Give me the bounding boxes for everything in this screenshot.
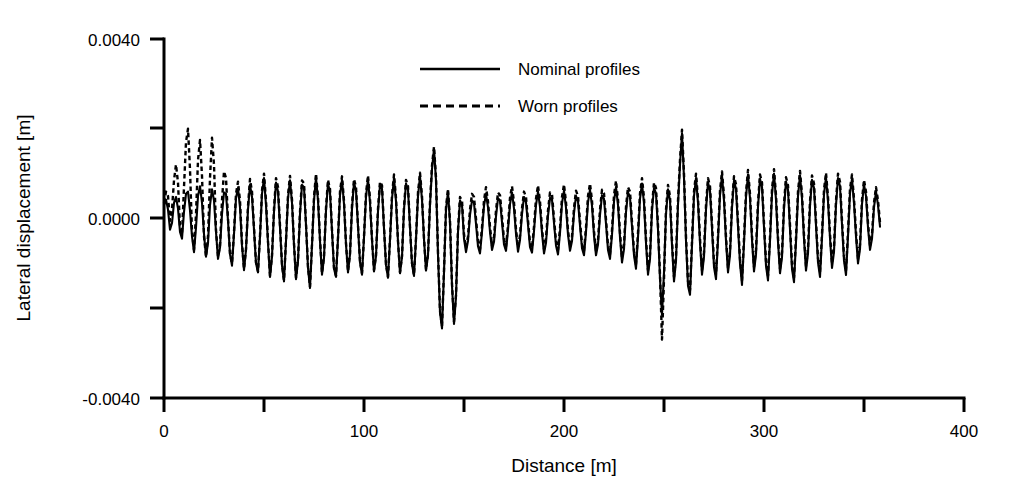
y-tick-label-zero: 0.0000 (88, 210, 140, 229)
x-tick-label-0: 0 (159, 422, 168, 441)
legend-label-worn: Worn profiles (518, 97, 618, 116)
series-line-worn-profiles (164, 129, 880, 340)
y-tick-label-lower: -0.0040 (82, 390, 140, 409)
legend-label-nominal: Nominal profiles (518, 60, 640, 79)
y-axis-title: Lateral displacement [m] (13, 115, 34, 322)
series-line-nominal-profiles (164, 133, 880, 328)
x-axis-title: Distance [m] (511, 455, 617, 476)
chart-figure: Lateral displacement [m] 0.0040 0.0000 -… (0, 0, 1014, 493)
lateral-displacement-chart: Lateral displacement [m] 0.0040 0.0000 -… (0, 0, 1014, 493)
x-tick-label-400: 400 (950, 422, 978, 441)
x-tick-label-200: 200 (550, 422, 578, 441)
x-tick-label-100: 100 (350, 422, 378, 441)
x-tick-label-300: 300 (750, 422, 778, 441)
chart-legend: Nominal profiles Worn profiles (420, 60, 640, 116)
y-tick-label-upper: 0.0040 (88, 31, 140, 50)
